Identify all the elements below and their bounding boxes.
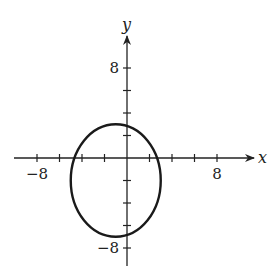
y-axis-label: y bbox=[121, 15, 132, 34]
x-tick-label: −8 bbox=[26, 165, 48, 183]
y-tick-label: −8 bbox=[97, 239, 119, 257]
x-tick-label: 8 bbox=[212, 165, 222, 183]
ellipse-curve bbox=[71, 124, 161, 237]
x-axis-label: x bbox=[258, 148, 267, 167]
graph-plot: −888−8 x y bbox=[0, 0, 276, 269]
y-tick-label: 8 bbox=[109, 59, 119, 77]
